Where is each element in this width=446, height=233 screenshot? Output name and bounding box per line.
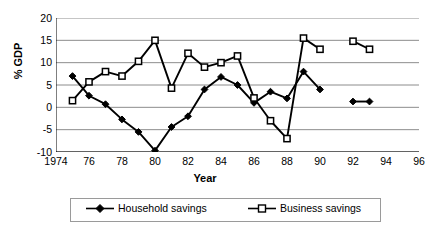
open-square-marker-icon [247, 203, 277, 214]
y-axis-tick-label: 15 [22, 35, 52, 46]
legend-label-household-savings: Household savings [118, 203, 207, 214]
legend-label-business-savings: Business savings [280, 203, 361, 214]
y-axis-tick-label: -5 [22, 124, 52, 135]
legend-item-household-savings: Household savings [85, 203, 207, 214]
y-axis-tick-label: 0 [22, 102, 52, 113]
legend-item-business-savings: Business savings [247, 203, 361, 214]
x-axis-title: Year [193, 172, 216, 184]
chart-container: % GDP 20151050-5-10 19747678808284868890… [0, 0, 446, 233]
y-axis-tick-label: 5 [22, 80, 52, 91]
x-axis-ticks: 19747678808284868890929496 [0, 156, 446, 172]
chart-svg [56, 18, 419, 152]
x-axis-title-wrap: Year [0, 172, 446, 184]
plot-area [56, 18, 419, 152]
chart-legend: Household savings Business savings [70, 198, 381, 222]
filled-diamond-marker-icon [85, 203, 115, 214]
y-axis-tick-label: 20 [22, 13, 52, 24]
x-axis-tick-label: 96 [399, 156, 439, 167]
y-axis-tick-label: 10 [22, 57, 52, 68]
y-axis-ticks: 20151050-5-10 [18, 0, 52, 233]
